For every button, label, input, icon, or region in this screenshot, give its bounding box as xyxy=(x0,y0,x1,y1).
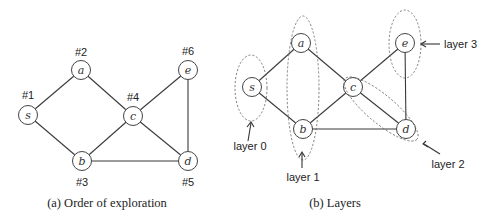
edge-s-a xyxy=(28,70,81,115)
node-b-a: b #3 xyxy=(73,152,92,189)
layer-2-label: layer 2 xyxy=(431,158,464,170)
edge-a-c xyxy=(301,43,353,87)
node-c-b: c xyxy=(344,78,363,97)
node-label: e xyxy=(185,64,192,77)
node-a-b: a xyxy=(292,34,311,53)
edges-a xyxy=(28,70,188,161)
edge-c-d xyxy=(353,87,406,129)
node-label: a xyxy=(298,37,305,50)
order-label: #6 xyxy=(182,45,194,57)
node-label: d xyxy=(402,123,409,136)
layer-0-arrow xyxy=(247,122,254,141)
edge-c-e xyxy=(133,70,188,116)
layer-1-arrow xyxy=(299,152,305,168)
node-label: b xyxy=(299,123,306,136)
node-c-a: c #4 xyxy=(124,91,143,126)
node-label: s xyxy=(249,81,255,94)
node-label: b xyxy=(78,155,85,168)
node-label: d xyxy=(184,155,191,168)
edge-e-d xyxy=(405,43,406,129)
layer-3-arrow xyxy=(421,41,440,47)
edge-c-e xyxy=(353,43,405,87)
panel-b: s a b c d e xyxy=(233,10,477,210)
node-s-a: s #1 xyxy=(19,89,38,125)
edges-b xyxy=(252,43,406,129)
node-label: e xyxy=(402,37,409,50)
node-label: s xyxy=(25,109,31,122)
order-label: #3 xyxy=(76,176,88,188)
edge-s-b xyxy=(28,115,82,161)
edge-b-c xyxy=(82,116,133,161)
caption-b: (b) Layers xyxy=(309,196,361,210)
layer-1-label: layer 1 xyxy=(286,171,319,183)
order-label: #5 xyxy=(182,176,194,188)
node-e-a: e #6 xyxy=(179,45,198,80)
layer-3-label: layer 3 xyxy=(444,38,477,50)
order-label: #1 xyxy=(22,89,34,101)
node-label: c xyxy=(350,81,356,94)
node-e-b: e xyxy=(396,34,415,53)
panel-a: s #1 a #2 b #3 c #4 d #5 e #6 (a) Order xyxy=(19,45,198,210)
node-a-a: a #2 xyxy=(72,46,91,80)
order-label: #4 xyxy=(127,91,139,103)
node-b-b: b xyxy=(294,120,313,139)
node-d-a: d #5 xyxy=(179,152,198,189)
edge-c-d xyxy=(133,116,188,161)
caption-a: (a) Order of exploration xyxy=(47,196,167,210)
layer-0-label: layer 0 xyxy=(233,140,266,152)
node-s-b: s xyxy=(243,78,262,97)
node-label: a xyxy=(78,64,85,77)
edge-a-c xyxy=(81,70,133,116)
order-label: #2 xyxy=(75,46,87,58)
layer-2-arrow xyxy=(423,141,440,154)
node-label: c xyxy=(130,110,136,123)
node-d-b: d xyxy=(397,120,416,139)
bfs-figure: s #1 a #2 b #3 c #4 d #5 e #6 (a) Order xyxy=(0,0,491,223)
